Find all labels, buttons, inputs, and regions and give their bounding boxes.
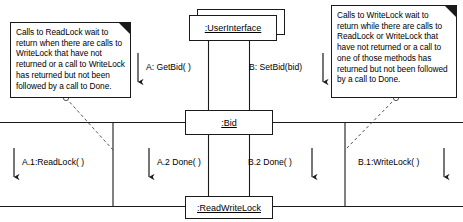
object-userinterface[interactable]: :UserInterface: [189, 15, 277, 41]
readlock-note: Calls to ReadLock wait to return when th…: [10, 22, 131, 98]
object-userinterface-label: :UserInterface: [205, 23, 262, 33]
note-fold-corner-icon: [445, 6, 456, 17]
message-label-b1-writelock: B.1:WriteLock( ): [358, 157, 419, 167]
note-anchor-left: [66, 98, 113, 150]
object-readwritelock[interactable]: :ReadWriteLock: [185, 196, 273, 219]
message-label-b-setbid: B: SetBid(bid): [249, 62, 302, 72]
note-fold-corner-icon: [119, 23, 130, 34]
readlock-note-text: Calls to ReadLock wait to return when th…: [16, 27, 125, 91]
object-bid-label: :Bid: [221, 118, 237, 128]
message-label-b2-done: B.2 Done( ): [248, 157, 292, 167]
writelock-note: Calls to WriteLock wait to return while …: [331, 5, 457, 98]
message-label-a-getbid: A: GetBid( ): [146, 62, 191, 72]
note-anchor-right: [345, 98, 396, 150]
uml-communication-diagram: Calls to ReadLock wait to return when th…: [0, 0, 463, 222]
object-bid[interactable]: :Bid: [185, 110, 273, 135]
message-label-a1-readlock: A.1:ReadLock( ): [22, 157, 84, 167]
object-readwritelock-label: :ReadWriteLock: [197, 203, 261, 213]
writelock-note-text: Calls to WriteLock wait to return while …: [337, 10, 451, 85]
message-label-a2-done: A.2 Done( ): [157, 157, 201, 167]
